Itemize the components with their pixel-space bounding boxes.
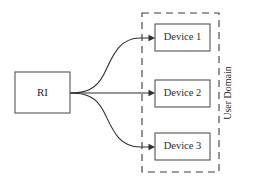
node-device-3-label: Device 3 xyxy=(164,140,202,151)
arrowhead-device-1-icon xyxy=(149,35,156,41)
arrowhead-group xyxy=(149,35,156,150)
diagram-svg: RI Device 1 Device 2 Device 3 User Domai… xyxy=(0,0,253,184)
edge-ri-to-device-1 xyxy=(70,38,154,93)
node-device-1[interactable]: Device 1 xyxy=(155,24,210,51)
user-domain-label: User Domain xyxy=(222,66,233,120)
edge-ri-to-device-3 xyxy=(70,93,154,147)
node-ri-label: RI xyxy=(37,86,48,98)
node-device-2-label: Device 2 xyxy=(164,87,202,98)
node-device-3[interactable]: Device 3 xyxy=(155,133,210,160)
arrowhead-device-2-icon xyxy=(149,90,156,96)
node-device-1-label: Device 1 xyxy=(164,31,202,42)
node-ri[interactable]: RI xyxy=(15,72,70,113)
diagram-canvas: RI Device 1 Device 2 Device 3 User Domai… xyxy=(0,0,253,184)
arrowhead-device-3-icon xyxy=(149,144,156,150)
node-device-2[interactable]: Device 2 xyxy=(155,80,210,107)
edge-group xyxy=(70,38,154,147)
